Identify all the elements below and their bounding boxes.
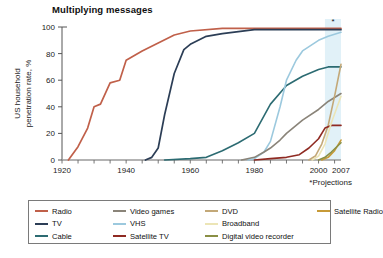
- y-tick-label: 20: [46, 129, 55, 138]
- y-tick-label: 100: [42, 23, 56, 32]
- projection-band: [325, 19, 341, 160]
- legend-item-label: Cable: [52, 233, 72, 241]
- x-tick-label: 1940: [117, 166, 135, 175]
- line-chart: *020406080100192019401960198020002007US …: [0, 0, 360, 200]
- x-tick-label: 1920: [53, 166, 71, 175]
- legend-swatch-icon: [205, 235, 218, 237]
- legend-item-label: Radio: [52, 208, 72, 216]
- legend-item: Satellite Radio: [317, 205, 383, 218]
- x-tick-label: 2007: [332, 166, 350, 175]
- legend-item-label: VHS: [130, 220, 146, 228]
- x-tick-label: 1980: [246, 166, 264, 175]
- legend-item: Digital video recorder: [205, 230, 317, 243]
- legend-item: DVD: [205, 205, 317, 218]
- legend-item: Cable: [35, 230, 113, 243]
- legend-swatch-icon: [113, 223, 126, 225]
- legend-item-label: Satellite TV: [130, 233, 169, 241]
- projections-footnote: *Projections: [309, 178, 352, 187]
- legend-item-label: Satellite Radio: [334, 208, 383, 216]
- legend-item: Broadband: [205, 218, 317, 231]
- legend-item: Radio: [35, 205, 113, 218]
- legend-item-label: Video games: [130, 208, 174, 216]
- y-tick-label: 40: [46, 103, 55, 112]
- y-tick-label: 80: [46, 50, 55, 59]
- legend-item: Video games: [113, 205, 205, 218]
- series-line-cable: [165, 67, 341, 160]
- legend-swatch-icon: [113, 235, 126, 237]
- series-line-radio: [68, 28, 341, 160]
- legend-item-label: Digital video recorder: [222, 233, 294, 241]
- y-axis-title-line2: penetration rate, %: [24, 60, 33, 128]
- legend-item: VHS: [113, 218, 205, 231]
- y-tick-label: 0: [51, 156, 56, 165]
- y-axis-title-line1: US household: [13, 68, 22, 118]
- legend-swatch-icon: [35, 223, 48, 225]
- x-tick-label: 2000: [310, 166, 328, 175]
- projection-marker: *: [331, 17, 334, 26]
- legend-swatch-icon: [205, 210, 218, 212]
- legend-item: TV: [35, 218, 113, 231]
- legend-item: Satellite TV: [113, 230, 205, 243]
- y-tick-label: 60: [46, 76, 55, 85]
- legend-swatch-icon: [35, 235, 48, 237]
- legend-swatch-icon: [35, 210, 48, 212]
- legend-item-label: DVD: [222, 208, 238, 216]
- legend-swatch-icon: [205, 223, 218, 225]
- chart-legend: RadioVideo gamesDVDSatellite RadioTVVHSB…: [28, 200, 331, 244]
- legend-swatch-icon: [317, 210, 330, 212]
- legend-item-label: TV: [52, 220, 62, 228]
- x-tick-label: 1960: [181, 166, 199, 175]
- legend-swatch-icon: [113, 210, 126, 212]
- legend-item-label: Broadband: [222, 220, 259, 228]
